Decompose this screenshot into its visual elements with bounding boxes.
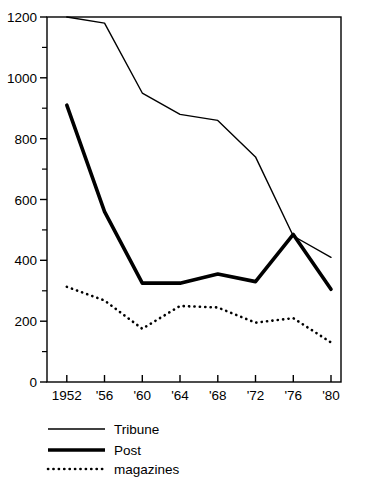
x-tick-label-1964: '64 xyxy=(171,388,189,403)
data-series-group xyxy=(67,17,331,342)
y-tick-label-0: 0 xyxy=(29,375,37,390)
x-tick-label-1968: '68 xyxy=(209,388,227,403)
y-tick-label-200: 200 xyxy=(14,314,37,329)
x-axis-ticks xyxy=(67,375,331,382)
chart-legend: Tribune Post magazines xyxy=(48,422,180,477)
legend-label-magazines: magazines xyxy=(114,462,180,477)
legend-label-tribune: Tribune xyxy=(114,422,159,437)
y-tick-label-400: 400 xyxy=(14,253,37,268)
series-line-post xyxy=(67,105,331,289)
y-tick-label-600: 600 xyxy=(14,193,37,208)
series-line-tribune xyxy=(67,17,331,257)
legend-item-post: Post xyxy=(48,443,141,458)
x-tick-label-1980: '80 xyxy=(322,388,340,403)
plot-frame xyxy=(47,17,341,382)
y-tick-label-800: 800 xyxy=(14,132,37,147)
x-tick-label-1956: '56 xyxy=(96,388,114,403)
x-tick-label-1952: 1952 xyxy=(52,388,82,403)
legend-item-magazines: magazines xyxy=(48,462,180,477)
x-tick-label-1972: '72 xyxy=(247,388,265,403)
line-chart: 1200 1000 800 600 400 200 0 1952 '56 '60… xyxy=(0,0,366,480)
y-axis-labels: 1200 1000 800 600 400 200 0 xyxy=(7,10,37,390)
y-tick-label-1000: 1000 xyxy=(7,71,37,86)
chart-canvas: 1200 1000 800 600 400 200 0 1952 '56 '60… xyxy=(0,0,366,480)
legend-label-post: Post xyxy=(114,443,141,458)
x-axis-labels: 1952 '56 '60 '64 '68 '72 '76 '80 xyxy=(52,388,340,403)
x-tick-label-1960: '60 xyxy=(134,388,152,403)
y-axis-major-ticks xyxy=(40,17,47,382)
legend-item-tribune: Tribune xyxy=(48,422,159,437)
y-tick-label-1200: 1200 xyxy=(7,10,37,25)
series-line-magazines xyxy=(67,287,331,343)
x-tick-label-1976: '76 xyxy=(285,388,303,403)
